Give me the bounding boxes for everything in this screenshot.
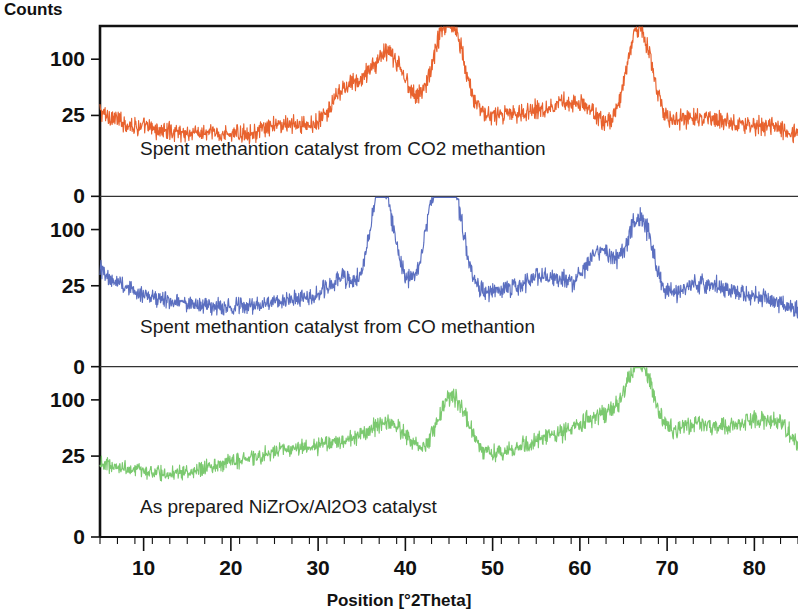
x-tick-label: 30: [306, 556, 329, 579]
y-axis-title: Counts: [4, 0, 63, 19]
x-axis-title: Position [°2Theta]: [327, 591, 472, 610]
y-tick-label: 0: [73, 355, 85, 378]
trace-series-2: [100, 368, 798, 481]
trace-series-1: [100, 197, 798, 318]
y-axis-ticks: 100250100250100250: [50, 47, 100, 548]
x-axis-tick-labels: 1020304050607080: [132, 556, 766, 579]
x-tick-label: 40: [394, 556, 417, 579]
x-tick-label: 60: [568, 556, 591, 579]
trace-series-0: [100, 27, 798, 144]
y-tick-label: 0: [73, 184, 85, 207]
y-tick-label: 25: [62, 103, 86, 126]
y-tick-label: 100: [50, 47, 85, 70]
series-annotations: Spent methantion catalyst from CO2 metha…: [140, 138, 546, 517]
x-tick-label: 50: [481, 556, 504, 579]
y-tick-label: 100: [50, 218, 85, 241]
xrd-chart: Counts 100250100250100250 10203040506070…: [0, 0, 798, 611]
x-tick-label: 70: [655, 556, 678, 579]
y-tick-label: 0: [73, 525, 85, 548]
series-label-0: Spent methantion catalyst from CO2 metha…: [140, 138, 546, 159]
y-tick-label: 25: [62, 444, 86, 467]
y-tick-label: 25: [62, 274, 86, 297]
series-label-2: As prepared NiZrOx/Al2O3 catalyst: [140, 496, 437, 517]
x-axis-ticks: [100, 537, 798, 551]
x-tick-label: 80: [743, 556, 766, 579]
xrd-plot-svg: Counts 100250100250100250 10203040506070…: [0, 0, 798, 611]
y-tick-label: 100: [50, 388, 85, 411]
series-label-1: Spent methantion catalyst from CO methan…: [140, 316, 535, 337]
data-traces: [100, 27, 798, 481]
x-tick-label: 20: [219, 556, 242, 579]
x-tick-label: 10: [132, 556, 155, 579]
